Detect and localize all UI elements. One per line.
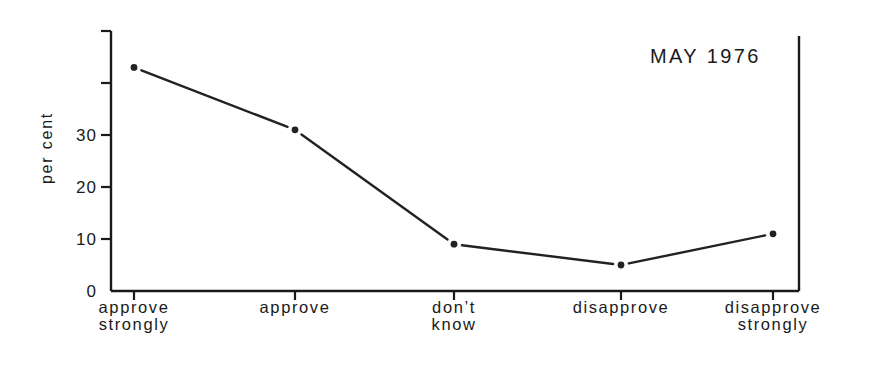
- axes: [111, 31, 799, 291]
- x-axis-ticks: approvestronglyapprovedon’tknowdisapprov…: [99, 291, 822, 333]
- y-tick-label: 10: [76, 230, 97, 249]
- x-tick-label: disapprove: [725, 298, 822, 316]
- y-tick-label: 20: [76, 178, 97, 197]
- data-point: [292, 126, 299, 133]
- series-segment: [301, 134, 447, 239]
- y-tick-label: 0: [87, 282, 97, 301]
- x-tick-label: know: [432, 315, 477, 333]
- y-axis-ticks: 0102030: [76, 31, 111, 301]
- x-tick-label: strongly: [99, 315, 170, 333]
- x-tick-label: approve: [99, 298, 170, 316]
- x-tick-label: strongly: [738, 315, 809, 333]
- data-series: [131, 64, 777, 268]
- y-axis-label: per cent: [38, 112, 55, 184]
- chart-title: MAY 1976: [650, 45, 761, 67]
- x-tick-label: disapprove: [573, 298, 670, 316]
- x-tick-label: don’t: [432, 298, 476, 316]
- y-tick-label: 30: [76, 126, 97, 145]
- data-point: [451, 241, 458, 248]
- x-tick-label: approve: [260, 298, 331, 316]
- data-point: [770, 230, 777, 237]
- data-point: [618, 262, 625, 269]
- line-chart: 0102030 approvestronglyapprovedon’tknowd…: [0, 0, 869, 367]
- series-segment: [629, 235, 765, 263]
- data-point: [131, 64, 138, 71]
- series-segment: [462, 245, 613, 264]
- series-segment: [141, 70, 287, 127]
